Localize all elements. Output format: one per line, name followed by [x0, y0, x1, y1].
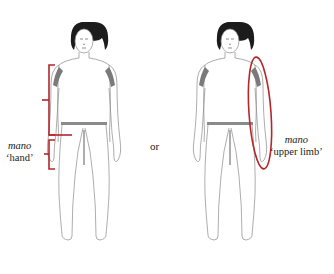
left-body-figure	[47, 22, 120, 240]
hand-gloss-label: mano ‘hand’	[6, 140, 33, 164]
gloss-hand: ‘hand’	[6, 152, 33, 164]
right-body-figure	[193, 22, 266, 240]
term-mano-right: mano	[270, 134, 323, 146]
diagram-canvas: mano ‘hand’ or mano ‘upper limb’	[0, 0, 334, 274]
gloss-upper-limb: ‘upper limb’	[270, 146, 323, 158]
connector-or: or	[150, 140, 159, 152]
term-mano-left: mano	[6, 140, 33, 152]
upper-limb-gloss-label: mano ‘upper limb’	[270, 134, 323, 158]
